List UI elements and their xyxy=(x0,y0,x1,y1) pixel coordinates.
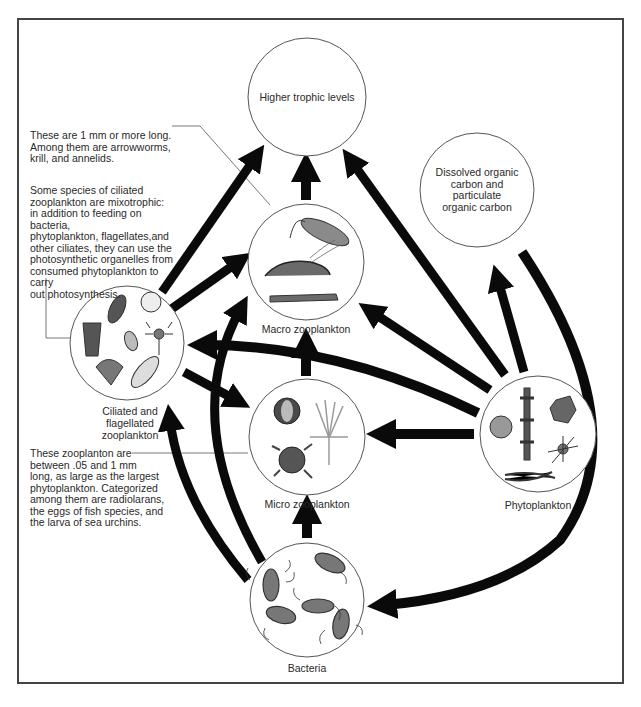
label-micro-zooplankton: Micro zooplankton xyxy=(250,498,364,510)
note-line: the larva of sea urchins. xyxy=(30,517,180,529)
label-bacteria: Bacteria xyxy=(270,662,344,674)
note-macro-zooplankton: These are 1 mm or more long. Among them … xyxy=(30,130,180,165)
label-line: Dissolved organic xyxy=(425,167,529,179)
note-line: krill, and annelids. xyxy=(30,153,180,165)
note-line: phytoplankton, flagellates,and xyxy=(30,231,180,243)
label-line: zooplankton xyxy=(90,429,170,441)
note-line: consumed phytoplankton to carry xyxy=(30,266,180,289)
label-doc: Dissolved organic carbon and particulate… xyxy=(425,167,529,213)
note-line: in addition to feeding on bacteria, xyxy=(30,208,180,231)
arrow-ciliated-to-micro xyxy=(184,372,236,400)
note-line: among them are radiolarans, xyxy=(30,494,180,506)
label-phytoplankton: Phytoplankton xyxy=(480,499,596,511)
label-line: particulate xyxy=(425,190,529,202)
note-line: photosynthetic organelles from xyxy=(30,254,180,266)
label-line: flagellated xyxy=(90,417,170,429)
note-line: long, as large as the largest xyxy=(30,471,180,483)
node-bacteria xyxy=(250,543,364,657)
arrow-phyto-to-doc xyxy=(498,280,524,372)
note-line: out photosynthesis. xyxy=(30,289,180,301)
macro-note-pointer xyxy=(172,126,270,205)
label-line: organic carbon xyxy=(425,202,529,214)
label-macro-zooplankton: Macro zooplankton xyxy=(250,323,362,335)
note-line: These zooplanton are xyxy=(30,448,180,460)
note-line: These are 1 mm or more long. xyxy=(30,130,180,142)
note-ciliated-zooplankton: Some species of ciliated zooplankton are… xyxy=(30,185,180,300)
label-line: Ciliated and xyxy=(90,405,170,417)
note-micro-zooplankton: These zooplanton are between .05 and 1 m… xyxy=(30,448,180,529)
food-web-diagram xyxy=(0,0,641,707)
label-higher-trophic: Higher trophic levels xyxy=(252,92,362,104)
label-ciliated-zooplankton: Ciliated and flagellated zooplankton xyxy=(90,405,170,441)
note-line: Some species of ciliated xyxy=(30,185,180,197)
